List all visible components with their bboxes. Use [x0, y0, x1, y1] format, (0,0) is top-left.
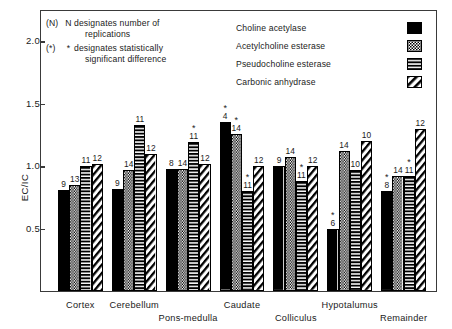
x-axis-label-remainder: Remainder	[380, 313, 427, 323]
x-axis-label-cortex: Cortex	[66, 300, 95, 310]
x-axis-label-hypotalumus: Hypotalumus	[322, 300, 378, 310]
x-axis-labels: CortexCerebellumPons-medullaCaudateColli…	[0, 0, 452, 329]
x-axis-label-colliculus: Colliculus	[275, 313, 317, 323]
x-axis-label-pons-medulla: Pons-medulla	[159, 313, 218, 323]
x-axis-label-cerebellum: Cerebellum	[110, 300, 159, 310]
x-axis-label-caudate: Caudate	[224, 300, 261, 310]
